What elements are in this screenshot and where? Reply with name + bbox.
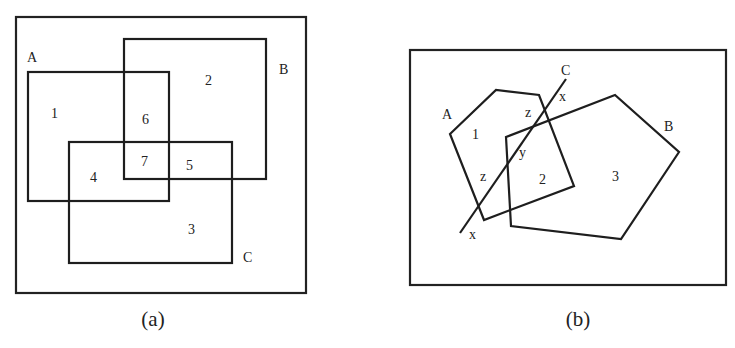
panel-a-set-c-rect xyxy=(69,142,232,263)
panel-b-set-b-polygon xyxy=(506,95,679,239)
panel-a-region-7: 7 xyxy=(141,154,148,169)
panel-b-region-3: 3 xyxy=(612,169,619,184)
panel-b-point-z-upper: z xyxy=(525,105,531,120)
panel-b-point-x-upper: x xyxy=(559,89,566,104)
panel-a-universe-box xyxy=(16,17,306,293)
panel-b: A B C 1 2 3 z z y x x (b) xyxy=(410,50,726,331)
panel-a-region-6: 6 xyxy=(142,112,149,127)
panel-b-point-z-lower: z xyxy=(480,169,486,184)
panel-b-set-a-polygon xyxy=(450,90,574,220)
panel-b-set-b-label: B xyxy=(664,119,673,134)
panel-b-region-2: 2 xyxy=(539,172,546,187)
venn-diagram-figure: A B C 1 2 3 4 5 6 7 (a) A B C 1 2 3 z z … xyxy=(0,0,735,348)
panel-a-region-3: 3 xyxy=(188,222,195,237)
panel-b-set-c-label: C xyxy=(561,63,570,78)
panel-a-set-c-label: C xyxy=(243,250,252,265)
panel-a-region-1: 1 xyxy=(51,106,58,121)
panel-a-region-4: 4 xyxy=(90,170,97,185)
panel-a-caption: (a) xyxy=(141,307,164,331)
panel-a-set-a-rect xyxy=(28,72,169,201)
panel-a-region-2: 2 xyxy=(205,73,212,88)
panel-b-caption: (b) xyxy=(566,307,591,331)
panel-a-set-a-label: A xyxy=(27,50,38,65)
panel-b-point-x-lower: x xyxy=(469,227,476,242)
panel-a-region-5: 5 xyxy=(186,158,193,173)
panel-a-set-b-label: B xyxy=(279,62,288,77)
panel-a: A B C 1 2 3 4 5 6 7 (a) xyxy=(16,17,306,331)
panel-b-point-y: y xyxy=(519,145,526,160)
panel-b-region-1: 1 xyxy=(472,127,479,142)
panel-b-set-a-label: A xyxy=(442,107,453,122)
